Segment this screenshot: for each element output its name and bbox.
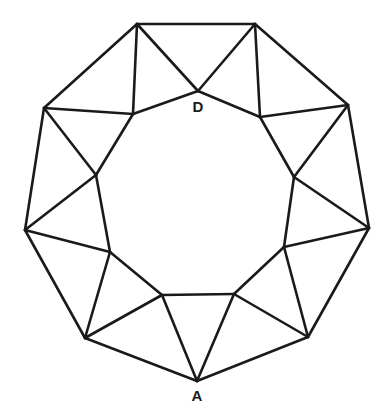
inner-edge <box>284 177 294 247</box>
inner-polygon <box>96 91 294 295</box>
outer-edge <box>348 105 369 228</box>
outer-edge <box>44 24 137 108</box>
spoke-edge <box>198 24 255 91</box>
spoke-edge <box>255 24 260 117</box>
spoke-edge <box>284 247 308 337</box>
inner-edge <box>260 117 294 177</box>
outer-edge <box>255 24 348 105</box>
outer-edge <box>25 108 44 230</box>
spoke-edge <box>294 105 348 177</box>
diagram-canvas: D A <box>0 0 390 420</box>
outer-edge <box>308 228 369 337</box>
spoke-edge <box>294 177 369 228</box>
spoke-edge <box>284 228 369 247</box>
inner-edge <box>162 294 234 295</box>
spoke-edge <box>133 24 137 114</box>
spoke-edge <box>25 230 110 252</box>
inner-edge <box>234 247 284 294</box>
spoke-edge <box>137 24 198 91</box>
inner-edge <box>110 252 162 295</box>
outer-polygon <box>25 24 369 381</box>
spoke-edge <box>162 295 197 381</box>
inner-edge <box>96 114 133 175</box>
spoke-edge <box>260 105 348 117</box>
spoke-edge <box>25 175 96 230</box>
outer-edge <box>85 338 197 381</box>
spoke-edge <box>234 294 308 337</box>
vertex-label-d: D <box>193 98 204 115</box>
spoke-edge <box>44 108 133 114</box>
spoke-edge <box>44 108 96 175</box>
inner-edge <box>133 91 198 114</box>
inner-edge <box>198 91 260 117</box>
vertex-label-a: A <box>192 387 203 404</box>
inner-edge <box>96 175 110 252</box>
outer-edge <box>25 230 85 338</box>
